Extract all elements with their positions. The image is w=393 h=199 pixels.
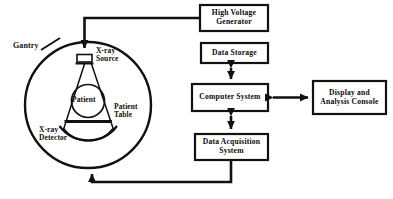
display-analysis-console-label: Display and Analysis Console — [313, 81, 386, 114]
high-voltage-generator-label: High Voltage Generator — [200, 5, 268, 31]
data-storage-label: Data Storage — [201, 43, 268, 63]
gantry-label: Gantry — [13, 42, 39, 51]
ct-scanner-diagram: Gantry X-ray Source Patient Patient Tabl… — [0, 0, 393, 199]
computer-system-label: Computer System — [192, 84, 268, 111]
x-ray-detector-label: X-ray Detector — [39, 126, 67, 143]
x-ray-detector-arc-inner — [64, 129, 114, 141]
gantry-leader-line — [41, 38, 60, 50]
patient-table-label: Patient Table — [114, 103, 138, 120]
x-ray-source-label: X-ray Source — [96, 47, 119, 64]
patient-label: Patient — [72, 96, 96, 104]
data-acquisition-system-label: Data Acquisition System — [195, 134, 268, 160]
x-ray-source-housing — [77, 55, 92, 63]
